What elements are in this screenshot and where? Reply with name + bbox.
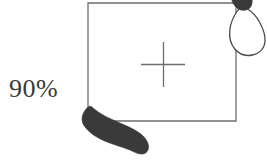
percent-label: 90% xyxy=(9,74,58,104)
figure-canvas: 90% xyxy=(0,0,267,161)
